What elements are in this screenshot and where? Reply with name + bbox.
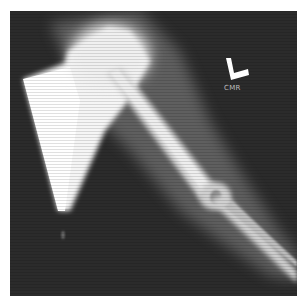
xray-drawing xyxy=(10,11,297,296)
xray-image xyxy=(10,11,297,296)
technologist-initials-label: CMR xyxy=(224,84,241,92)
side-marker-l-icon xyxy=(222,56,252,86)
